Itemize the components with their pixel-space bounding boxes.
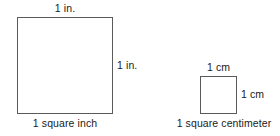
square-centimeter-right-dimension-label: 1 cm xyxy=(241,88,264,100)
square-inch-caption: 1 square inch xyxy=(17,117,113,129)
square-inch-shape xyxy=(17,17,113,114)
square-centimeter-caption: 1 square centimeter xyxy=(172,117,276,129)
square-inch-top-dimension-label: 1 in. xyxy=(17,2,113,14)
figure-canvas: 1 in. 1 in. 1 square inch 1 cm 1 cm 1 sq… xyxy=(0,0,280,136)
square-centimeter-top-dimension-label: 1 cm xyxy=(200,61,237,73)
square-centimeter-shape xyxy=(200,76,237,114)
square-inch-right-dimension-label: 1 in. xyxy=(117,59,137,71)
